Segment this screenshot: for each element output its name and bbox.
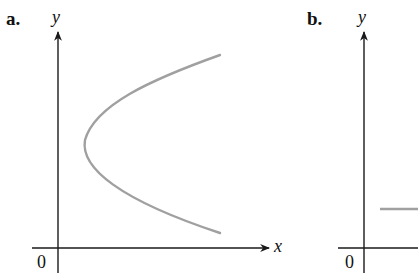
panel-b-y-axis-label: y — [358, 7, 366, 28]
panel-a-parabola-curve — [85, 55, 220, 233]
panel-b-origin-label: 0 — [345, 252, 354, 273]
panel-a-x-axis-label: x — [274, 236, 282, 257]
diagram-canvas — [0, 0, 418, 273]
panel-b-graph — [338, 32, 418, 273]
panel-a-graph — [32, 32, 269, 273]
panel-a-origin-label: 0 — [37, 252, 46, 273]
panel-a-y-axis-label: y — [52, 7, 60, 28]
panel-a-label: a. — [6, 8, 20, 30]
panel-b-label: b. — [307, 8, 322, 30]
